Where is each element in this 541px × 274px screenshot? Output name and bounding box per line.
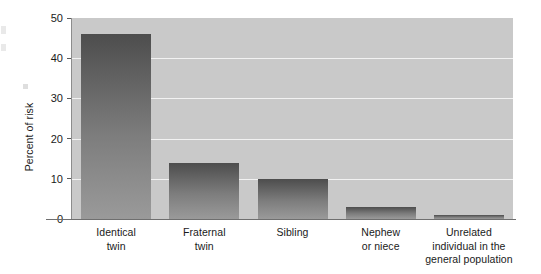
x-axis-label-container: IdenticaltwinFraternaltwinSiblingNephewo… [72, 226, 513, 274]
bar [346, 207, 416, 219]
bar-chart: Percent of risk 01020304050 Identicaltwi… [0, 0, 541, 274]
x-axis-category-label: Unrelatedindividual in thegeneral popula… [405, 226, 533, 267]
x-axis-category-label-line: twin [140, 240, 268, 254]
x-axis-category-label-line: Unrelated [405, 226, 533, 240]
y-axis-tick-label: 30 [51, 92, 67, 104]
y-axis-tick-label: 50 [51, 12, 67, 24]
x-axis-category-label-line: individual in the [405, 240, 533, 254]
y-axis-tick-label: 10 [51, 173, 67, 185]
plot-area [72, 18, 513, 219]
x-axis-category-label-line: general population [405, 253, 533, 267]
bar [81, 34, 151, 219]
scan-artifact [1, 44, 6, 51]
bar [169, 163, 239, 219]
y-axis-tick: 30 [51, 91, 72, 105]
bar [258, 179, 328, 219]
y-axis-tick: 20 [51, 132, 72, 146]
y-axis-tick-label: 20 [51, 133, 67, 145]
y-axis-tick-label: 40 [51, 52, 67, 64]
y-axis-tick: 50 [51, 11, 72, 25]
y-axis-tick: 40 [51, 51, 72, 65]
x-axis-line [46, 219, 516, 220]
scan-artifact [1, 26, 6, 34]
y-axis-tick: 10 [51, 172, 72, 186]
